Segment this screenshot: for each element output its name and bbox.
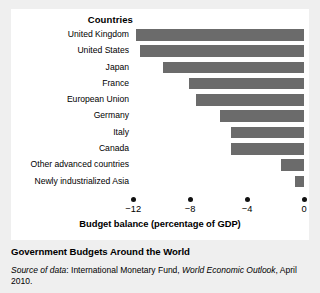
source-publication: World Economic Outlook — [182, 265, 276, 275]
bar-row-label: European Union — [11, 94, 129, 104]
source-note: Source of data: International Monetary F… — [11, 265, 311, 287]
bar — [140, 45, 304, 57]
chart-plot-panel: Countries United KingdomUnited StatesJap… — [11, 9, 309, 240]
bar-track — [129, 43, 309, 59]
bar-track — [129, 174, 309, 190]
bar-row-label: Other advanced countries — [11, 159, 129, 169]
axis-tick-dot — [188, 197, 193, 202]
bar — [196, 94, 304, 106]
bar-row: Other advanced countries — [11, 157, 309, 173]
bar — [189, 78, 304, 90]
figure-container: Countries United KingdomUnited StatesJap… — [0, 0, 320, 293]
bar-row: Germany — [11, 108, 309, 124]
bar-row: Canada — [11, 141, 309, 157]
bar-row-label: Germany — [11, 110, 129, 120]
bar-row: Japan — [11, 60, 309, 76]
bar-track — [129, 92, 309, 108]
axis-tick-label: −12 — [113, 204, 153, 214]
bar-rows: United KingdomUnited StatesJapanFranceEu… — [11, 27, 309, 190]
x-axis-title: Budget balance (percentage of GDP) — [11, 218, 309, 229]
bar-track — [129, 125, 309, 141]
x-axis: Budget balance (percentage of GDP) −12−8… — [11, 197, 309, 241]
bar-track — [129, 60, 309, 76]
bar-row-label: United States — [11, 45, 129, 55]
axis-tick-dot — [245, 197, 250, 202]
bar-row: Italy — [11, 125, 309, 141]
bar-row: United Kingdom — [11, 27, 309, 43]
bar — [281, 159, 304, 171]
axis-tick-label: −4 — [227, 204, 267, 214]
bar — [136, 29, 304, 41]
figure-caption-title: Government Budgets Around the World — [11, 246, 311, 257]
bar-row: France — [11, 76, 309, 92]
bar-row-label: Italy — [11, 127, 129, 137]
bar-track — [129, 141, 309, 157]
bar-track — [129, 76, 309, 92]
bar — [163, 62, 304, 74]
bar — [220, 110, 304, 122]
axis-tick-dot — [131, 197, 136, 202]
bar-track — [129, 157, 309, 173]
bar-row: Newly industrialized Asia — [11, 174, 309, 190]
bar-row-label: France — [11, 78, 129, 88]
bar-row: European Union — [11, 92, 309, 108]
bar-row-label: Japan — [11, 62, 129, 72]
axis-tick-label: −8 — [170, 204, 210, 214]
axis-tick-dot — [302, 197, 307, 202]
bar — [231, 143, 304, 155]
bar-row-label: Newly industrialized Asia — [11, 176, 129, 186]
bar — [295, 176, 304, 188]
bar-track — [129, 108, 309, 124]
bar-row-label: United Kingdom — [11, 29, 129, 39]
chart-column-header: Countries — [11, 14, 133, 25]
bar-track — [129, 27, 309, 43]
source-colon: : International Monetary Fund, — [66, 265, 182, 275]
source-prefix: Source of data — [11, 265, 66, 275]
bar-row: United States — [11, 43, 309, 59]
bar — [231, 127, 304, 139]
axis-tick-label: 0 — [284, 204, 320, 214]
caption-block: Government Budgets Around the World Sour… — [11, 246, 311, 287]
bar-row-label: Canada — [11, 143, 129, 153]
